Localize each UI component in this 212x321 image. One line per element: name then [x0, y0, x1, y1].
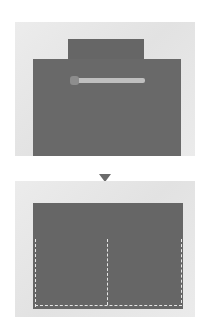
stitch-line-left — [35, 239, 36, 307]
step-1-photo — [15, 22, 195, 156]
stitch-line-right — [181, 239, 182, 303]
step-2-photo — [15, 181, 195, 317]
zipper-pull-icon — [70, 76, 79, 85]
zipper — [72, 78, 145, 83]
stitch-line-bottom — [35, 305, 182, 306]
fabric-body-folded — [33, 203, 183, 309]
fabric-body — [33, 59, 181, 156]
stitch-line-middle — [107, 239, 108, 305]
